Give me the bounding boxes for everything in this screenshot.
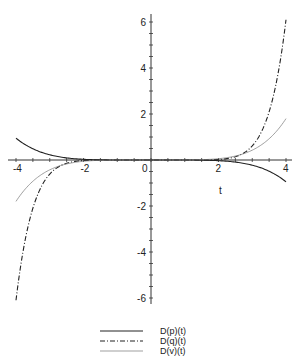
y-tick-label: 6 — [140, 17, 146, 28]
legend-label: D(q)(t) — [160, 336, 186, 346]
y-tick-label: 2 — [140, 109, 146, 120]
legend-label: D(p)(t) — [160, 326, 186, 336]
x-axis-label: t — [219, 185, 222, 196]
legend-label: D(v)(t) — [160, 346, 186, 356]
y-tick-label: -6 — [137, 293, 146, 304]
y-tick-label: -2 — [137, 201, 146, 212]
y-tick-label: -4 — [137, 247, 146, 258]
x-tick-label: -2 — [81, 163, 90, 174]
x-tick-label: -4 — [13, 163, 22, 174]
x-tick-label: 0 — [142, 163, 148, 174]
axes: -4-2024642-2-4-6t — [8, 14, 292, 304]
line-chart: -4-2024642-2-4-6t D(p)(t)D(q)(t)D(v)(t) — [0, 0, 297, 364]
x-tick-label: 4 — [283, 163, 289, 174]
legend: D(p)(t)D(q)(t)D(v)(t) — [100, 326, 186, 356]
y-tick-label: 4 — [140, 63, 146, 74]
x-tick-label: 2 — [216, 163, 222, 174]
